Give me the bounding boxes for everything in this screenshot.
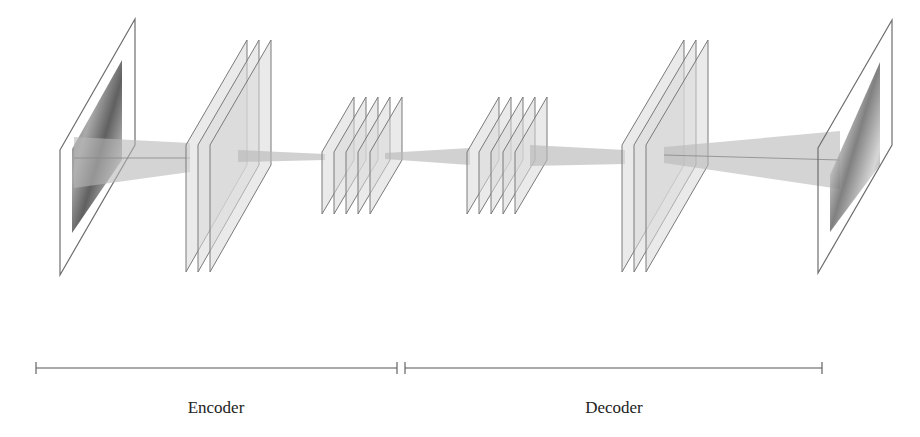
encoder-label: Encoder [188, 398, 245, 418]
decoder-bracket [405, 362, 822, 374]
decoder-label: Decoder [585, 398, 643, 418]
connection-enc1-to-enc2 [238, 150, 325, 162]
encoder-bracket [36, 362, 397, 374]
connection-input-to-enc1 [74, 137, 190, 188]
encoder-decoder-diagram [0, 0, 920, 437]
connection-dec1-to-dec2 [530, 145, 625, 166]
